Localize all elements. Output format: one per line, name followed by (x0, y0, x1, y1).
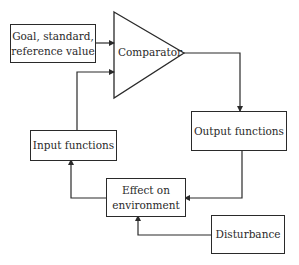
input-functions-label: Input functions (33, 138, 114, 152)
arrow-input-to-comparator (77, 72, 114, 130)
disturbance-label: Disturbance (215, 227, 280, 241)
comparator-label: Comparator (118, 46, 182, 58)
output-functions-label: Output functions (194, 124, 284, 138)
arrow-effect-to-input (71, 160, 106, 198)
goal-box: Goal, standard, reference value (10, 24, 96, 63)
arrow-comparator-to-output (184, 53, 240, 111)
effect-on-environment-label: Effect on environment (112, 183, 180, 211)
input-functions-box: Input functions (30, 130, 117, 161)
arrow-output-to-effect (185, 150, 242, 198)
arrow-disturbance-to-effect (138, 216, 211, 235)
output-functions-box: Output functions (191, 111, 287, 151)
effect-on-environment-box: Effect on environment (106, 178, 186, 217)
goal-label: Goal, standard, reference value (11, 29, 94, 57)
disturbance-box: Disturbance (211, 215, 285, 254)
